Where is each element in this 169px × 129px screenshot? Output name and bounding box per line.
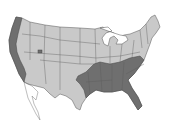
us-map: [0, 0, 169, 129]
region-utah-spot: [38, 50, 42, 53]
baja-california: [24, 82, 40, 120]
